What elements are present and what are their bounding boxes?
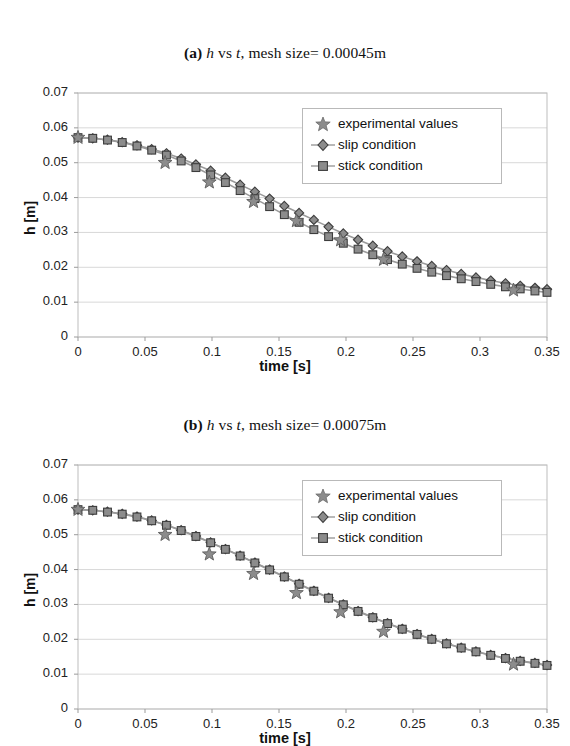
square-marker [413, 264, 421, 272]
square-marker [310, 226, 318, 234]
square-marker [413, 631, 421, 639]
x-tick-label: 0 [48, 344, 108, 359]
x-tick-label: 0.05 [115, 344, 175, 359]
square-marker [89, 134, 97, 142]
figure-b-canvas [0, 372, 570, 744]
square-marker [266, 566, 274, 574]
square-marker [398, 260, 406, 268]
legend-item-slip: slip condition [310, 134, 492, 155]
square-marker [354, 608, 362, 616]
square-marker [148, 146, 156, 154]
square-marker [543, 662, 551, 670]
square-marker [531, 659, 539, 667]
square-marker [104, 136, 112, 144]
square-marker [118, 139, 126, 147]
legend-item-experimental: experimental values [310, 113, 492, 134]
square-marker [163, 521, 171, 529]
square-marker [207, 539, 215, 547]
x-tick-label: 0.2 [316, 344, 376, 359]
y-tick-label: 0.06 [2, 491, 68, 506]
square-marker [310, 587, 318, 595]
x-tick-label: 0.25 [383, 716, 443, 731]
square-marker [280, 211, 288, 219]
y-tick-label: 0.04 [2, 561, 68, 576]
y-tick-label: 0.02 [2, 258, 68, 273]
diamond-icon [310, 508, 336, 526]
square-marker [457, 275, 465, 283]
square-marker [222, 179, 230, 187]
x-tick-label: 0.35 [517, 344, 570, 359]
square-marker [354, 245, 362, 253]
square-marker [398, 625, 406, 633]
square-marker [369, 251, 377, 259]
legend-label-experimental: experimental values [336, 116, 458, 131]
square-marker [163, 151, 171, 159]
square-marker [487, 651, 495, 659]
square-marker [133, 142, 141, 150]
diamond-icon [310, 136, 336, 154]
x-tick-label: 0.1 [182, 344, 242, 359]
y-tick-label: 0.07 [2, 456, 68, 471]
legend-label-stick: stick condition [336, 158, 423, 173]
y-tick-label: 0.01 [2, 293, 68, 308]
square-marker [104, 508, 112, 516]
diamond-marker [368, 241, 377, 250]
x-tick-label: 0.15 [249, 344, 309, 359]
legend-label-slip: slip condition [336, 509, 416, 524]
star-icon [310, 487, 336, 505]
y-tick-label: 0.05 [2, 526, 68, 541]
square-marker [325, 594, 333, 602]
figure-b-legend: experimental values slip condition stick… [302, 480, 502, 556]
y-tick-label: 0.03 [2, 223, 68, 238]
square-marker [133, 513, 141, 521]
figure-b: (b) h vs t, mesh size= 0.00075m h [m] ti… [0, 372, 570, 744]
y-tick-label: 0.03 [2, 595, 68, 610]
y-tick-label: 0.02 [2, 630, 68, 645]
x-tick-label: 0.25 [383, 344, 443, 359]
square-marker [384, 620, 392, 628]
star-marker [202, 547, 216, 560]
square-marker [443, 640, 451, 648]
square-marker [280, 573, 288, 581]
square-marker [251, 559, 259, 567]
y-tick-label: 0.05 [2, 154, 68, 169]
square-marker [443, 272, 451, 280]
square-marker [531, 287, 539, 295]
square-marker [177, 157, 185, 165]
diamond-marker [324, 222, 333, 231]
figure-a: (a) h vs t, mesh size= 0.00045m h [m] ti… [0, 0, 570, 372]
square-marker [192, 533, 200, 541]
x-tick-label: 0.05 [115, 716, 175, 731]
diamond-marker [353, 235, 362, 244]
square-marker [502, 655, 510, 663]
square-marker [236, 187, 244, 195]
y-tick-label: 0.07 [2, 84, 68, 99]
square-marker [266, 203, 274, 211]
legend-label-slip: slip condition [336, 137, 416, 152]
y-tick-label: 0 [2, 700, 68, 715]
square-icon [310, 529, 336, 547]
square-marker [222, 545, 230, 553]
square-marker [148, 517, 156, 525]
diamond-marker [309, 215, 318, 224]
figure-b-plot: h [m] time [s] 00.010.020.030.040.050.06… [0, 372, 570, 744]
figure-a-legend: experimental values slip condition stick… [302, 108, 502, 184]
x-tick-label: 0.3 [450, 716, 510, 731]
x-tick-label: 0.2 [316, 716, 376, 731]
square-marker [236, 552, 244, 560]
legend-item-experimental: experimental values [310, 485, 492, 506]
x-tick-label: 0.3 [450, 344, 510, 359]
y-tick-label: 0 [2, 328, 68, 343]
square-marker [325, 233, 333, 241]
square-marker [428, 635, 436, 643]
y-tick-label: 0.01 [2, 665, 68, 680]
square-marker [177, 527, 185, 535]
legend-item-stick: stick condition [310, 527, 492, 548]
y-tick-label: 0.04 [2, 189, 68, 204]
star-marker [247, 567, 261, 580]
x-tick-label: 0.1 [182, 716, 242, 731]
square-marker [487, 280, 495, 288]
x-tick-label: 0.35 [517, 716, 570, 731]
legend-label-stick: stick condition [336, 530, 423, 545]
legend-item-slip: slip condition [310, 506, 492, 527]
